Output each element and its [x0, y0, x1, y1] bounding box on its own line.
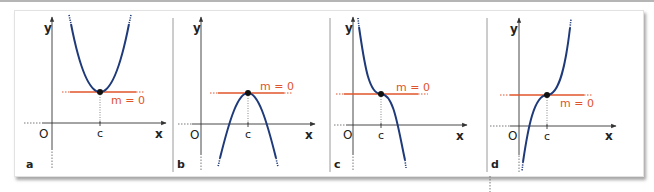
panel-a [24, 15, 166, 168]
point-label: c [544, 130, 550, 143]
panel-d [490, 18, 616, 172]
tangent-point [97, 89, 103, 95]
panel-label: a [26, 158, 33, 171]
y-axis-label: y [345, 21, 353, 35]
origin-label: O [343, 128, 352, 142]
panel-label: d [491, 158, 499, 171]
point-label: c [378, 129, 384, 142]
y-axis-label: y [193, 21, 201, 35]
tangent-point [245, 90, 251, 96]
point-label: c [245, 128, 251, 141]
tangent-point [378, 91, 384, 97]
origin-label: O [190, 128, 199, 142]
point-label: c [97, 127, 103, 140]
tangent-point [544, 92, 550, 98]
tangent-label: m = 0 [111, 94, 145, 107]
panel-label: c [334, 158, 341, 171]
tangent-label: m = 0 [560, 97, 594, 110]
y-axis-label: y [44, 21, 52, 35]
curve [71, 24, 129, 92]
x-axis-label: x [305, 128, 313, 142]
panel-b [178, 17, 315, 170]
x-axis-label: x [456, 129, 464, 143]
x-axis-label: x [155, 127, 163, 141]
tangent-label: m = 0 [260, 80, 294, 93]
panel-label: b [177, 158, 185, 171]
x-axis-label: x [605, 129, 613, 143]
tangent-diagrams: y O c x m = 0 a y O c x m = 0 b y O c x … [0, 0, 654, 192]
origin-label: O [508, 129, 517, 143]
origin-label: O [39, 127, 48, 141]
y-axis-label: y [510, 22, 518, 36]
tangent-label: m = 0 [396, 81, 430, 94]
